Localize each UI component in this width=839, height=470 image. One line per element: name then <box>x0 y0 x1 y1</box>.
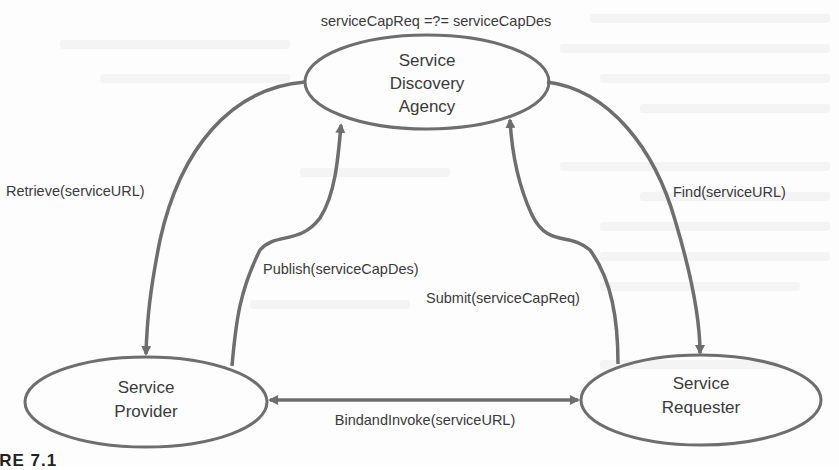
edge-publish-label: Publish(serviceCapDes) <box>263 261 419 277</box>
edge-find-label: Find(serviceURL) <box>673 184 786 200</box>
agency-label-line2: Discovery <box>390 74 465 93</box>
agency-label-line1: Service <box>399 51 456 70</box>
agency-label-line3: Agency <box>399 97 456 116</box>
edge-submit-label: Submit(serviceCapReq) <box>426 290 580 306</box>
edge-find-arrow <box>547 82 700 353</box>
node-service-discovery-agency[interactable]: Service Discovery Agency <box>305 35 549 129</box>
matching-condition-label: serviceCapReq =?= serviceCapDes <box>321 13 552 29</box>
edge-bind-invoke-label: BindandInvoke(serviceURL) <box>335 412 516 428</box>
node-service-requester[interactable]: Service Requester <box>581 355 821 445</box>
edge-submit-arrow <box>510 120 618 364</box>
node-service-provider[interactable]: Service Provider <box>25 357 267 447</box>
provider-label-line2: Provider <box>114 402 178 421</box>
provider-label-line1: Service <box>118 378 175 397</box>
requester-label-line1: Service <box>673 374 730 393</box>
edge-publish-arrow <box>232 125 341 366</box>
edge-retrieve-label: Retrieve(serviceURL) <box>6 183 145 199</box>
requester-label-line2: Requester <box>662 398 741 417</box>
figure-caption: URE 7.1 <box>0 451 57 470</box>
edge-retrieve-arrow <box>146 82 305 354</box>
